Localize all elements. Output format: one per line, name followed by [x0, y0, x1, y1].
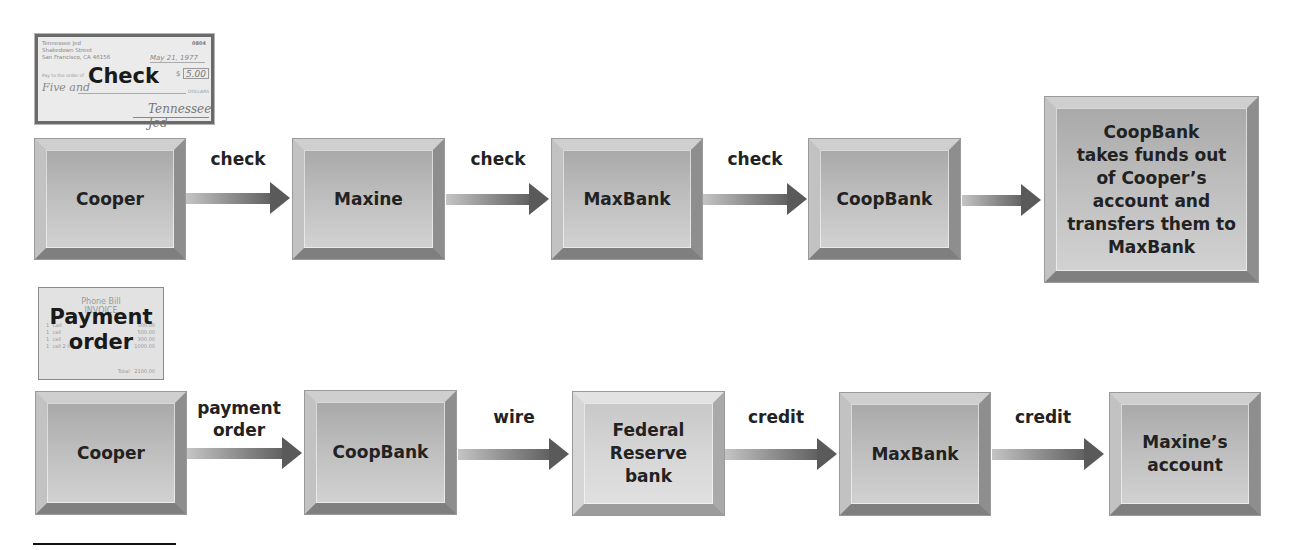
payment-order-document: Phone Bill INVOICE 1 Call500.00 1 call50… — [38, 287, 164, 380]
arrow-right-icon — [458, 438, 569, 470]
check-title: Check — [88, 64, 159, 88]
node-federal-reserve-bank: Federal Reserve bank — [573, 392, 724, 515]
node-label-line: Maxine’s — [1138, 431, 1231, 454]
node-label: CoopBank — [329, 441, 433, 464]
edge-label-line: payment — [188, 397, 290, 419]
node-label-line: Reserve — [606, 442, 691, 465]
check-pay-to-label: Pay to the order of — [42, 73, 84, 78]
payment-order-title-line: Payment — [39, 305, 163, 330]
check-date: May 21, 1977 — [150, 54, 205, 63]
edge-label-payment-order: payment order — [188, 397, 290, 441]
node-label: Maxine — [330, 188, 407, 211]
node-label-line: account — [1138, 454, 1231, 477]
payment-order-title-line: order — [39, 330, 163, 355]
node-maxines-account: Maxine’s account — [1110, 393, 1260, 515]
check-currency-symbol: $ — [176, 70, 180, 78]
arrow-right-icon — [446, 183, 549, 215]
address-line: San Francisco, CA 46156 — [42, 54, 110, 61]
node-label-line: of Cooper’s — [1063, 167, 1240, 190]
check-amount: 5.00 — [183, 68, 209, 79]
node-label-line: bank — [606, 465, 691, 488]
check-drawer-address: Tennessee Jed Shakedown Street San Franc… — [42, 40, 110, 61]
node-label-line: Federal — [606, 419, 691, 442]
arrow-right-icon — [186, 182, 290, 214]
edge-label-check-1: check — [188, 148, 288, 170]
node-label-line: account and — [1063, 190, 1240, 213]
address-line: Shakedown Street — [42, 47, 110, 54]
address-line: Tennessee Jed — [42, 40, 110, 47]
arrow-right-icon — [703, 183, 807, 215]
arrow-right-icon — [962, 184, 1041, 216]
edge-label-credit-1: credit — [726, 406, 826, 428]
node-label-line: MaxBank — [1063, 236, 1240, 259]
node-coopbank-bottom: CoopBank — [305, 391, 456, 514]
edge-label-check-3: check — [705, 148, 805, 170]
node-cooper-bottom: Cooper — [36, 392, 186, 514]
arrow-right-icon — [992, 438, 1104, 470]
footnote-rule — [33, 543, 176, 545]
node-label-line: CoopBank — [1063, 121, 1240, 144]
node-label: MaxBank — [867, 443, 962, 466]
check-words-line — [78, 93, 186, 94]
edge-label-check-2: check — [448, 148, 548, 170]
invoice-total: Total 2100.00 — [118, 368, 155, 374]
node-label-line: transfers them to — [1063, 213, 1240, 236]
node-label: Cooper — [72, 188, 148, 211]
node-coopbank-transfer: CoopBank takes funds out of Cooper’s acc… — [1045, 97, 1258, 282]
node-label: CoopBank — [833, 188, 937, 211]
node-label: Cooper — [73, 442, 149, 465]
arrow-right-icon — [725, 438, 837, 470]
node-maxine: Maxine — [293, 139, 444, 259]
check-number: 0804 — [192, 40, 206, 46]
node-label: Federal Reserve bank — [602, 419, 695, 488]
check-signature-line — [133, 117, 209, 118]
arrow-right-icon — [187, 437, 302, 469]
edge-label-wire: wire — [460, 406, 568, 428]
node-label: Maxine’s account — [1134, 431, 1235, 477]
node-label-line: takes funds out — [1063, 144, 1240, 167]
check-dollars-label: DOLLARS — [188, 89, 209, 94]
check-signature: Tennessee Jed — [148, 102, 211, 130]
node-maxbank-top: MaxBank — [552, 139, 702, 259]
payment-order-title: Payment order — [39, 305, 163, 355]
node-label: MaxBank — [579, 188, 674, 211]
node-maxbank-bottom: MaxBank — [840, 393, 990, 515]
edge-label-credit-2: credit — [993, 406, 1093, 428]
check-document: Tennessee Jed Shakedown Street San Franc… — [35, 34, 214, 124]
node-coopbank-top: CoopBank — [809, 139, 960, 259]
node-cooper-top: Cooper — [35, 139, 185, 259]
node-label: CoopBank takes funds out of Cooper’s acc… — [1059, 121, 1244, 259]
